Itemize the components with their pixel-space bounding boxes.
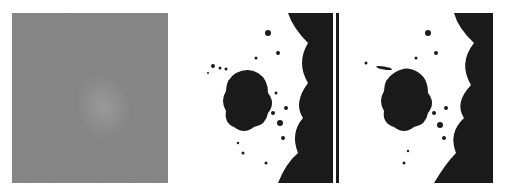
segmentation-mask-1 bbox=[168, 13, 333, 183]
segmentation-mask-2 bbox=[336, 13, 493, 183]
binary-mask bbox=[336, 13, 493, 183]
grayscale-image bbox=[12, 13, 168, 183]
original-grayscale-image bbox=[12, 13, 168, 183]
binary-mask bbox=[168, 13, 333, 183]
